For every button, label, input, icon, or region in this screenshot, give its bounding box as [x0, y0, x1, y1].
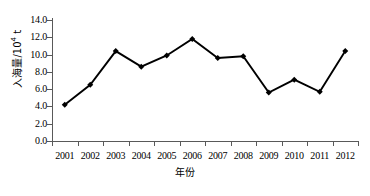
x-tick-mark — [282, 141, 283, 146]
y-tick-label-wrap: 14.0 — [0, 15, 47, 25]
series-line — [65, 39, 346, 105]
y-tick-label-wrap: 6.0 — [0, 84, 47, 94]
data-point-marker — [164, 52, 170, 58]
y-tick-label-wrap: 12.0 — [0, 32, 47, 42]
y-tick-mark — [47, 106, 52, 107]
x-tick-mark — [256, 141, 257, 146]
x-tick-mark — [307, 141, 308, 146]
x-tick-mark — [231, 141, 232, 146]
y-tick-mark — [47, 89, 52, 90]
data-point-marker — [113, 48, 119, 54]
y-axis-label: 入海量/104 t — [9, 9, 22, 109]
data-point-marker — [62, 102, 68, 108]
series-markers — [62, 36, 349, 108]
y-tick-mark — [47, 55, 52, 56]
x-tick-mark — [52, 141, 53, 146]
y-tick-label-wrap: 4.0 — [0, 101, 47, 111]
data-point-marker — [317, 89, 323, 95]
y-tick-mark — [47, 124, 52, 125]
x-tick-mark — [205, 141, 206, 146]
y-tick-label-wrap: 8.0 — [0, 67, 47, 77]
data-point-marker — [342, 48, 348, 54]
data-point-marker — [189, 36, 195, 42]
data-point-marker — [87, 82, 93, 88]
line-chart-figure: 0.02.04.06.08.010.012.014.0 200120022003… — [0, 0, 370, 196]
x-tick-mark — [154, 141, 155, 146]
x-tick-mark — [358, 141, 359, 146]
y-tick-label-wrap: 2.0 — [0, 119, 47, 129]
x-tick-label: 2012 — [328, 150, 362, 161]
data-point-marker — [138, 64, 144, 70]
x-axis-label: 年份 — [0, 167, 370, 178]
y-tick-label: 0.0 — [3, 136, 47, 146]
x-tick-mark — [103, 141, 104, 146]
y-tick-label-wrap: 10.0 — [0, 50, 47, 60]
data-point-marker — [215, 55, 221, 61]
data-point-marker — [291, 77, 297, 83]
y-tick-mark — [47, 72, 52, 73]
x-tick-mark — [180, 141, 181, 146]
y-axis-line — [52, 18, 53, 143]
y-tick-mark — [47, 37, 52, 38]
y-tick-label: 2.0 — [3, 119, 47, 129]
x-tick-mark — [129, 141, 130, 146]
y-tick-mark — [47, 20, 52, 21]
y-tick-label-wrap: 0.0 — [0, 136, 47, 146]
data-point-marker — [240, 53, 246, 59]
x-tick-mark — [333, 141, 334, 146]
x-tick-mark — [78, 141, 79, 146]
data-point-marker — [266, 90, 272, 96]
